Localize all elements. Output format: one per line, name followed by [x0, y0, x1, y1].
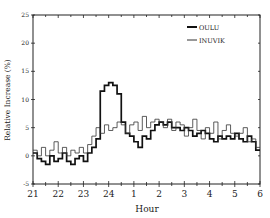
x-tick-label: 23: [78, 189, 90, 199]
x-tick-label: 2: [156, 189, 162, 199]
x-tick-label: 4: [207, 189, 213, 199]
x-axis-ticks: 21222324123456: [27, 15, 263, 199]
x-tick-label: 6: [257, 189, 263, 199]
y-tick-label: 10: [21, 96, 29, 103]
x-tick-label: 24: [103, 189, 115, 199]
y-tick-label: 15: [21, 67, 29, 74]
x-tick-label: 21: [27, 189, 38, 199]
x-tick-label: 5: [232, 189, 238, 199]
y-tick-label: 5: [25, 124, 29, 131]
y-tick-label: 0: [25, 152, 29, 159]
y-axis-title: Relative Increase (%): [3, 59, 12, 141]
y-tick-label: 25: [21, 11, 29, 18]
legend: OULU INUVIK: [187, 24, 225, 45]
y-tick-label: -5: [23, 180, 29, 187]
legend-label-inuvik: INUVIK: [199, 37, 225, 45]
x-tick-label: 22: [52, 189, 63, 199]
x-axis-title: Hour: [135, 204, 159, 214]
y-tick-label: 20: [21, 39, 29, 46]
chart: -50510152025 21222324123456 Hour Relativ…: [0, 0, 270, 218]
legend-label-oulu: OULU: [199, 24, 220, 32]
x-tick-label: 3: [181, 189, 187, 199]
series-layer: [33, 83, 260, 165]
x-tick-label: 1: [131, 189, 137, 199]
